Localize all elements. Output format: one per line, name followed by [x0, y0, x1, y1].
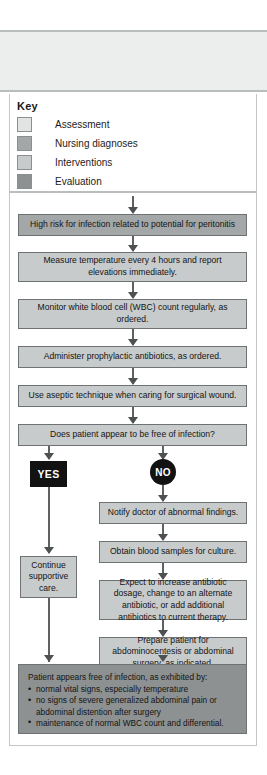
node-continue-supportive-care: Continue supportive care. — [20, 556, 77, 598]
arrow-to-aseptic — [128, 378, 138, 385]
flowchart: High risk for infection related to poten… — [0, 0, 267, 775]
branch-badge-no-label: NO — [155, 467, 171, 478]
node-diagnosis: High risk for infection related to poten… — [18, 214, 247, 236]
evaluation-bullet-item: no signs of severe generalized abdominal… — [28, 695, 237, 717]
arrow-to-decision — [128, 417, 138, 424]
node-continue-supportive-care-text: Continue supportive care. — [25, 560, 72, 595]
node-antibiotics: Administer prophylactic antibiotics, as … — [18, 346, 247, 368]
connector-continue-evaluation — [48, 598, 50, 662]
node-evaluation-outcome: Patient appears free of infection, as ex… — [18, 664, 247, 734]
node-aseptic-text: Use aseptic technique when caring for su… — [29, 390, 237, 401]
evaluation-bullet-list: normal vital signs, especially temperatu… — [28, 684, 237, 729]
node-diagnosis-text: High risk for infection related to poten… — [30, 219, 235, 230]
arrow-to-diagnosis — [128, 207, 138, 214]
arrow-to-yes — [44, 453, 54, 460]
node-temperature-text: Measure temperature every 4 hours and re… — [23, 255, 242, 278]
node-notify-doctor: Notify doctor of abnormal findings. — [99, 502, 247, 524]
node-wbc: Monitor white blood cell (WBC) count reg… — [18, 299, 247, 329]
arrow-to-continue — [44, 547, 54, 554]
arrow-to-notify — [158, 495, 168, 502]
node-antibiotics-text: Administer prophylactic antibiotics, as … — [44, 351, 222, 362]
node-decision-text: Does patient appear to be free of infect… — [50, 429, 215, 440]
evaluation-bullet-item: normal vital signs, especially temperatu… — [28, 684, 237, 695]
branch-badge-yes-label: YES — [37, 468, 59, 480]
evaluation-bullet-item: maintenance of normal WBC count and diff… — [28, 718, 237, 729]
arrow-to-evaluation-left — [44, 655, 54, 662]
arrow-to-evaluation-right — [158, 655, 168, 662]
node-notify-doctor-text: Notify doctor of abnormal findings. — [108, 507, 238, 518]
connector-yes-continue — [48, 487, 50, 553]
node-decision: Does patient appear to be free of infect… — [18, 424, 247, 446]
evaluation-lead-text: Patient appears free of infection, as ex… — [28, 672, 237, 683]
node-prepare-patient: Prepare patient for abdominocentesis or … — [99, 637, 247, 667]
arrow-to-wbc — [128, 292, 138, 299]
node-blood-samples-text: Obtain blood samples for culture. — [110, 546, 236, 557]
arrow-to-antibiotics — [128, 339, 138, 346]
node-antibiotic-dosage: Expect to increase antibiotic dosage, ch… — [99, 580, 247, 620]
branch-badge-yes: YES — [30, 461, 67, 487]
arrow-to-blood-samples — [158, 534, 168, 541]
node-antibiotic-dosage-text: Expect to increase antibiotic dosage, ch… — [104, 577, 242, 623]
arrow-to-temperature — [128, 245, 138, 252]
node-wbc-text: Monitor white blood cell (WBC) count reg… — [23, 302, 242, 325]
node-blood-samples: Obtain blood samples for culture. — [99, 541, 247, 563]
node-temperature: Measure temperature every 4 hours and re… — [18, 252, 247, 282]
node-aseptic: Use aseptic technique when caring for su… — [18, 385, 247, 407]
branch-badge-no: NO — [150, 459, 176, 485]
